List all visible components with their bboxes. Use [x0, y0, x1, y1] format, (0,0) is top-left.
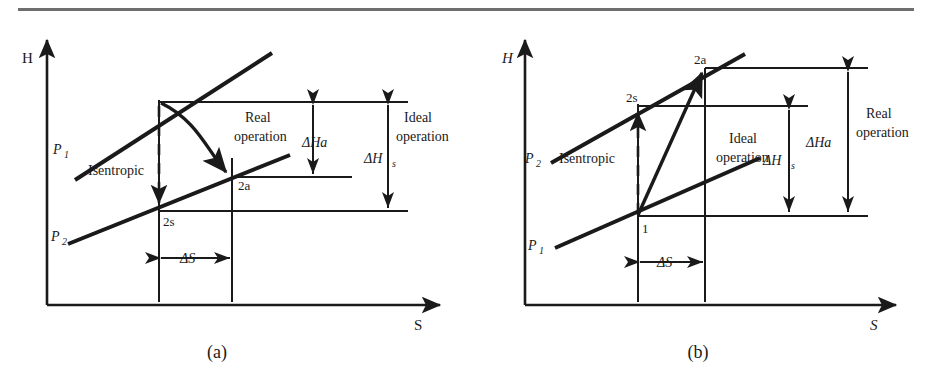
ideal-operation-line1: Ideal [404, 110, 432, 125]
delta-hs-subscript-a: s [392, 158, 396, 169]
x-axis-label-b: S [870, 317, 878, 333]
figure-a-svg: H S P 1 P 2 Isentropic [0, 0, 466, 389]
ideal-operation-line2: operation [396, 129, 449, 144]
y-axis-label-a: H [22, 50, 33, 66]
y-axis-label-b: H [501, 50, 514, 66]
real-operation-line1: Real [866, 106, 892, 121]
real-operation-line2: operation [234, 129, 287, 144]
real-operation-line2: operation [856, 125, 909, 140]
figure-a-turbine-expansion: H S P 1 P 2 Isentropic [0, 0, 466, 389]
delta-s-label-b: ΔS [656, 255, 672, 270]
svg-text:P: P [527, 238, 537, 253]
delta-ha-label-b: ΔHa [805, 135, 831, 150]
pressure-line-p1-a [75, 53, 272, 180]
isentropic-label-b: Isentropic [559, 151, 615, 166]
ideal-operation-line1: Ideal [729, 131, 757, 146]
delta-hs-dimension-b: ΔH s [762, 110, 795, 212]
point-label-2s-b: 2s [626, 90, 638, 105]
delta-hs-label-b: ΔH [762, 153, 782, 168]
figure-a-caption: (a) [207, 342, 227, 363]
svg-text:P: P [50, 229, 60, 244]
real-operation-label-b: Real operation [856, 106, 909, 140]
delta-s-label-a: ΔS [179, 251, 195, 266]
svg-text:P: P [52, 142, 62, 157]
delta-hs-label-a: ΔH [363, 151, 383, 166]
real-operation-line1: Real [245, 110, 271, 125]
point-label-2a-b: 2a [694, 52, 707, 67]
isentropic-label-a: Isentropic [88, 163, 144, 178]
delta-ha-dimension-a: ΔHa [301, 105, 327, 174]
pressure-label-p2-b: P 2 [524, 151, 541, 169]
point-label-2s-a: 2s [163, 214, 175, 229]
pressure-label-p1-a: P 1 [52, 142, 69, 160]
svg-text:P: P [524, 151, 534, 166]
figure-b-axes [525, 40, 896, 305]
ideal-operation-line2: operation [716, 150, 769, 165]
real-process-curve-a [161, 103, 226, 172]
delta-hs-subscript-b: s [791, 160, 795, 171]
svg-text:2: 2 [62, 236, 67, 247]
figure-b-compressor-compression: H S P 2 P 1 Isentropic [466, 0, 932, 389]
point-label-2a-a: 2a [238, 178, 251, 193]
figure-page: H S P 1 P 2 Isentropic [0, 0, 932, 389]
delta-ha-label-a: ΔHa [301, 135, 327, 150]
pressure-line-p2-b [551, 54, 745, 163]
ideal-operation-label-a: Ideal operation [396, 110, 449, 144]
svg-text:2: 2 [536, 158, 541, 169]
pressure-label-p2-a: P 2 [50, 229, 67, 247]
svg-text:1: 1 [64, 149, 69, 160]
real-operation-label-a: Real operation [234, 110, 287, 144]
ideal-operation-label-b: Ideal operation [716, 131, 769, 165]
svg-text:1: 1 [539, 245, 544, 256]
figure-b-caption: (b) [688, 342, 709, 363]
point-label-1-b: 1 [642, 221, 649, 236]
figure-b-svg: H S P 2 P 1 Isentropic [466, 0, 932, 389]
delta-s-dimension-a: ΔS [161, 251, 230, 266]
x-axis-label-a: S [414, 317, 422, 333]
delta-hs-dimension-a: ΔH s [363, 105, 396, 208]
delta-ha-dimension-b: ΔHa [805, 72, 848, 212]
pressure-label-p1-b: P 1 [527, 238, 544, 256]
delta-s-dimension-b: ΔS [640, 255, 703, 270]
